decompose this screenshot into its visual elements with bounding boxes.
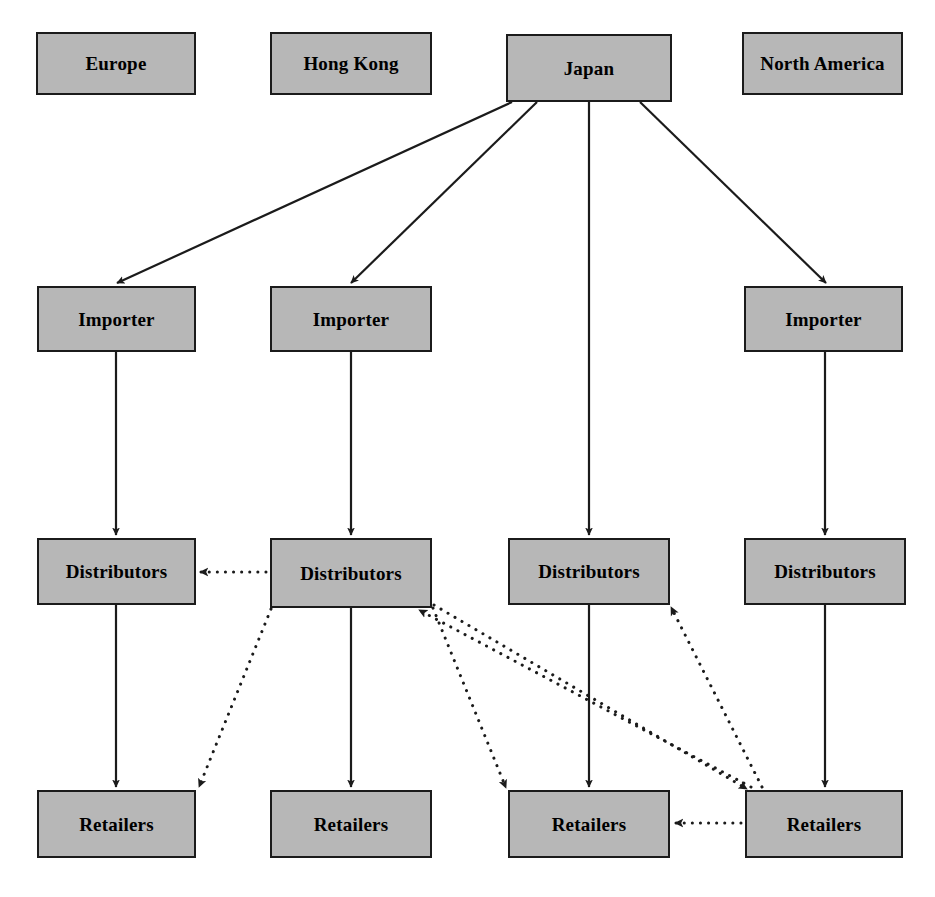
node-label-importer-2: Importer (313, 310, 390, 329)
node-label-retailers-3: Retailers (552, 815, 627, 834)
node-label-retailers-1: Retailers (79, 815, 154, 834)
node-region-europe[interactable]: Europe (36, 32, 196, 95)
node-retailers-4[interactable]: Retailers (745, 790, 903, 858)
edge-region-japan-to-importer-1 (117, 102, 512, 283)
diagram-canvas: EuropeHong KongJapanNorth AmericaImporte… (0, 0, 935, 897)
node-distributors-3[interactable]: Distributors (508, 538, 670, 605)
node-label-distributors-2: Distributors (300, 564, 402, 583)
edge-retailers-4-to-distributors-3 (671, 607, 762, 787)
edge-layer (0, 0, 935, 897)
node-region-north-america[interactable]: North America (742, 32, 903, 95)
node-importer-1[interactable]: Importer (37, 286, 196, 352)
node-retailers-1[interactable]: Retailers (37, 790, 196, 858)
node-distributors-4[interactable]: Distributors (744, 538, 906, 605)
edge-distributors-2-to-retailers-3 (433, 608, 506, 788)
node-label-region-hong-kong: Hong Kong (303, 54, 398, 73)
node-distributors-1[interactable]: Distributors (37, 538, 196, 605)
node-label-region-north-america: North America (760, 54, 884, 73)
node-label-region-europe: Europe (85, 54, 146, 73)
node-label-retailers-2: Retailers (314, 815, 389, 834)
node-label-distributors-3: Distributors (538, 562, 640, 581)
node-label-distributors-4: Distributors (774, 562, 876, 581)
edge-region-japan-to-importer-2 (351, 102, 537, 283)
node-label-retailers-4: Retailers (787, 815, 862, 834)
node-importer-2[interactable]: Importer (270, 286, 432, 352)
node-label-importer-4: Importer (785, 310, 862, 329)
node-importer-4[interactable]: Importer (744, 286, 903, 352)
edge-distributors-2-to-retailers-1 (199, 609, 271, 787)
node-distributors-2[interactable]: Distributors (270, 538, 432, 608)
node-region-japan[interactable]: Japan (506, 34, 672, 102)
node-label-importer-1: Importer (78, 310, 155, 329)
node-label-distributors-1: Distributors (66, 562, 168, 581)
node-region-hong-kong[interactable]: Hong Kong (270, 32, 432, 95)
node-label-region-japan: Japan (564, 59, 615, 78)
node-retailers-2[interactable]: Retailers (270, 790, 432, 858)
node-retailers-3[interactable]: Retailers (508, 790, 670, 858)
edge-region-japan-to-importer-4 (640, 102, 826, 283)
